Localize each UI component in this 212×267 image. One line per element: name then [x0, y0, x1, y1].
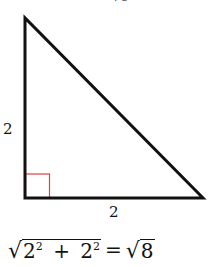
result-radicand: 8 — [140, 239, 155, 262]
bottom-side-label: 2 — [109, 205, 119, 220]
left-side-label: 2 — [3, 122, 13, 137]
radicand-left: 22 + 22 — [22, 239, 101, 262]
term-a-exp: 2 — [36, 240, 43, 253]
right-triangle-figure — [0, 0, 212, 230]
term-b-exp: 2 — [93, 240, 100, 253]
right-angle-marker — [26, 174, 50, 198]
radical-left: √ 22 + 22 — [8, 239, 101, 262]
term-a-base: 2 — [23, 239, 36, 263]
equals-sign: = — [105, 238, 122, 262]
pythagorean-formula: √ 22 + 22 = √ 8 — [8, 232, 155, 262]
hypotenuse-label-clipped: √8 — [112, 0, 129, 3]
radical-right: √ 8 — [126, 239, 155, 262]
plus-sign: + — [53, 239, 70, 263]
radical-sign: √ — [8, 240, 22, 262]
term-b-base: 2 — [80, 239, 93, 263]
radical-sign: √ — [126, 240, 140, 262]
triangle-outline — [25, 18, 203, 198]
